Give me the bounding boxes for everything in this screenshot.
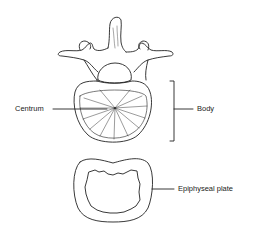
left-transverse-process: [58, 43, 108, 72]
vertebral-foramen: [98, 63, 132, 83]
vertebral-body-rim: [80, 90, 147, 138]
spinous-process-shade: [113, 26, 118, 48]
right-transverse-process: [126, 43, 173, 72]
epiphyseal-plate-label: Epiphyseal plate: [178, 185, 233, 193]
right-articular-process: [139, 41, 149, 50]
body-bracket: [170, 81, 193, 141]
vertebra-diagram: [0, 0, 259, 241]
left-lamina: [84, 60, 97, 80]
left-articular-process: [79, 41, 91, 50]
centrum-label: Centrum: [15, 105, 44, 113]
right-lamina: [146, 60, 148, 80]
centrum-trabeculae: [80, 90, 147, 139]
spinous-process: [108, 17, 126, 52]
body-label: Body: [197, 105, 214, 113]
epiphyseal-plate-inner: [85, 170, 140, 213]
